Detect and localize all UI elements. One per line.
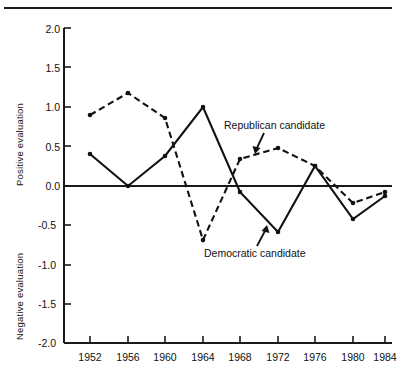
annotation-arrow-democratic <box>257 225 270 246</box>
annotation-arrow-republican <box>253 133 265 154</box>
series-line-democratic <box>88 105 388 235</box>
x-tick-marks <box>90 336 385 343</box>
series-markers-republican <box>88 91 388 243</box>
series-line-republican <box>88 91 388 243</box>
series-markers-democratic <box>88 105 388 235</box>
axes-group <box>64 28 392 343</box>
